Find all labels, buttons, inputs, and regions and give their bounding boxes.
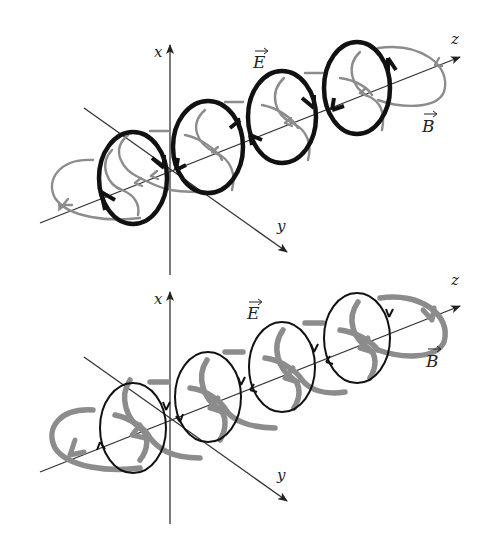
e-field-circles: [97, 293, 393, 473]
svg-text:B: B: [425, 351, 439, 371]
panel-top: x z y E B: [40, 30, 460, 275]
svg-text:E: E: [246, 303, 260, 323]
z-axis-label: z: [450, 271, 459, 289]
x-axis-label: x: [154, 290, 163, 308]
e-field-label: E: [246, 299, 262, 323]
em-wave-figure: x z y E B: [0, 0, 496, 546]
y-axis-label: y: [276, 466, 286, 484]
b-field-label: B: [421, 111, 437, 136]
e-field-label: E: [252, 48, 268, 72]
y-axis-label: y: [276, 217, 286, 235]
x-axis-label: x: [154, 43, 163, 61]
panel-bottom: x z y E B: [40, 271, 460, 524]
svg-text:E: E: [252, 52, 266, 72]
z-axis-label: z: [450, 30, 459, 48]
svg-text:B: B: [421, 116, 435, 136]
